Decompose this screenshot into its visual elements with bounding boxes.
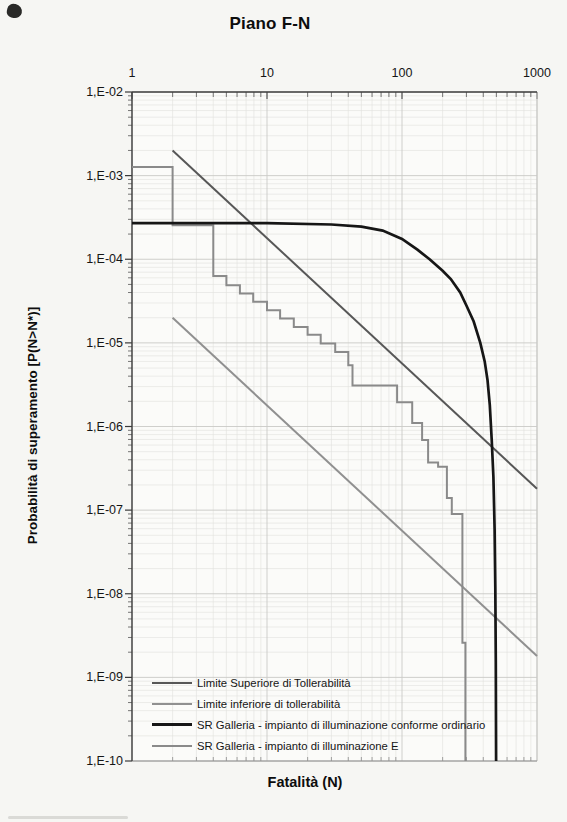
x-tick-label: 10 [260,66,274,80]
y-tick-label: 1,E-09 [61,670,123,684]
y-tick-label: 1,E-05 [61,336,123,350]
y-tick-label: 1,E-08 [61,587,123,601]
fn-chart-page: Piano F-N 1101001000 1,E-021,E-031,E-041… [0,0,567,822]
legend-item: SR Galleria - impianto di illuminazione … [152,714,482,735]
legend-line-swatch [152,745,192,747]
y-tick-label: 1,E-02 [61,85,123,99]
y-axis-title: Probabilità di superamento [P(N>N*)] [25,236,40,616]
y-tick-label: 1,E-03 [61,169,123,183]
scan-smudge [8,816,128,819]
legend-line-swatch [152,703,192,705]
legend-label: Limite Superiore di Tollerabilità [197,677,351,689]
y-tick-label: 1,E-07 [61,503,123,517]
legend-item: Limite Superiore di Tollerabilità [152,672,482,693]
y-tick-label: 1,E-10 [61,754,123,768]
legend-item: SR Galleria - impianto di illuminazione … [152,735,482,756]
legend-line-swatch [152,682,192,684]
legend-item: Limite inferiore di tollerabilità [152,693,482,714]
x-tick-label: 100 [392,66,413,80]
chart-legend: Limite Superiore di TollerabilitàLimite … [152,672,482,756]
legend-label: SR Galleria - impianto di illuminazione … [197,740,399,752]
y-tick-label: 1,E-04 [61,252,123,266]
legend-label: SR Galleria - impianto di illuminazione … [197,719,485,731]
y-tick-label: 1,E-06 [61,420,123,434]
legend-label: Limite inferiore di tollerabilità [197,698,340,710]
x-tick-label: 1000 [523,66,551,80]
x-axis-title: Fatalità (N) [75,774,535,790]
legend-line-swatch [152,723,192,726]
x-tick-label: 1 [129,66,136,80]
